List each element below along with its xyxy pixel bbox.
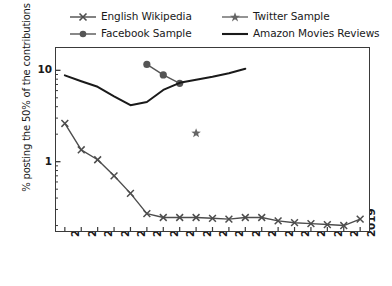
series-line xyxy=(65,69,245,105)
data-point-circle-icon xyxy=(160,71,167,78)
plot-area xyxy=(55,47,370,232)
data-point-x-icon xyxy=(94,156,101,163)
data-point-x-icon xyxy=(357,216,364,223)
chart-figure: English Wikipedia Twitter Sample Faceboo… xyxy=(0,0,392,286)
data-point-circle-icon xyxy=(143,61,150,68)
data-point-x-icon xyxy=(127,190,134,197)
data-point-x-icon xyxy=(61,120,68,127)
data-point-star-icon xyxy=(191,128,201,137)
series-twitter-sample xyxy=(191,128,201,137)
data-point-x-icon xyxy=(111,172,118,179)
series-amazon-movies-reviews xyxy=(65,69,245,105)
data-point-x-icon xyxy=(78,146,85,153)
series-line xyxy=(65,123,360,225)
series-english-wikipedia xyxy=(61,120,363,229)
